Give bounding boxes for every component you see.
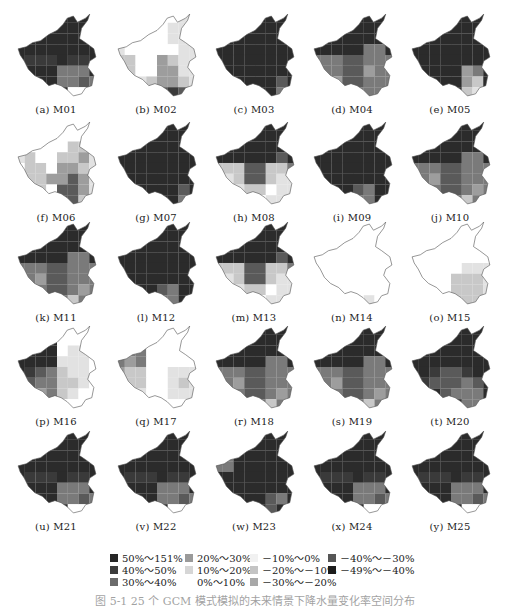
legend-item: －49%～－40%: [328, 564, 414, 575]
map-panel: (a) M01: [6, 12, 106, 116]
province-map: [408, 120, 494, 208]
panel-label: (m) M13: [204, 312, 304, 323]
panel-label: (n) M14: [302, 312, 402, 323]
province-map: [408, 12, 494, 100]
map-panel: (q) M17: [106, 324, 206, 428]
panel-label: (a) M01: [6, 104, 106, 115]
map-panel: (l) M12: [106, 220, 206, 324]
map-panel: (t) M20: [400, 324, 500, 428]
legend: 50%～151% 40%～50% 30%～40% 20%～30% 10%～20%…: [110, 552, 470, 588]
legend-label: 0%～10%: [197, 574, 245, 589]
legend-swatch: [185, 566, 193, 574]
panel-label: (u) M21: [6, 521, 106, 532]
map-panel: (d) M04: [302, 12, 402, 116]
province-map: [212, 12, 298, 100]
legend-swatch: [328, 554, 336, 562]
province-map: [408, 220, 494, 308]
map-panel: (v) M22: [106, 429, 206, 533]
province-map: [212, 324, 298, 412]
province-map: [114, 324, 200, 412]
province-map: [114, 429, 200, 517]
province-map: [114, 12, 200, 100]
panel-label: (v) M22: [106, 521, 206, 532]
map-panel: (m) M13: [204, 220, 304, 324]
legend-swatch: [110, 578, 118, 586]
panel-label: (t) M20: [400, 416, 500, 427]
province-map: [114, 220, 200, 308]
province-map: [408, 429, 494, 517]
legend-label: －49%～－40%: [340, 562, 414, 577]
map-panel: (x) M24: [302, 429, 402, 533]
map-panel: (u) M21: [6, 429, 106, 533]
legend-item: －30%～－20%: [250, 576, 336, 587]
map-panel: (s) M19: [302, 324, 402, 428]
legend-swatch: [110, 566, 118, 574]
map-panel: (n) M14: [302, 220, 402, 324]
panel-label: (p) M16: [6, 416, 106, 427]
panel-label: (l) M12: [106, 312, 206, 323]
map-panel: (i) M09: [302, 120, 402, 224]
province-map: [408, 324, 494, 412]
province-map: [212, 429, 298, 517]
map-panel: (p) M16: [6, 324, 106, 428]
legend-item: 0%～10%: [185, 576, 245, 587]
province-map: [114, 120, 200, 208]
panel-label: (k) M11: [6, 312, 106, 323]
map-panel: (r) M18: [204, 324, 304, 428]
legend-label: －30%～－20%: [262, 574, 336, 589]
legend-swatch: [250, 578, 258, 586]
map-panel: (j) M10: [400, 120, 500, 224]
map-panel: (g) M07: [106, 120, 206, 224]
legend-swatch: [328, 566, 336, 574]
map-panel: (w) M23: [204, 429, 304, 533]
panel-label: (r) M18: [204, 416, 304, 427]
legend-swatch: [250, 554, 258, 562]
map-panel: (o) M15: [400, 220, 500, 324]
panel-label: (d) M04: [302, 104, 402, 115]
province-map: [212, 220, 298, 308]
legend-label: 30%～40%: [122, 574, 176, 589]
panel-label: (e) M05: [400, 104, 500, 115]
province-map: [212, 120, 298, 208]
legend-swatch: [185, 554, 193, 562]
legend-swatch: [110, 554, 118, 562]
map-panel: (h) M08: [204, 120, 304, 224]
province-map: [14, 12, 100, 100]
province-map: [310, 220, 396, 308]
province-map: [310, 324, 396, 412]
panel-label: (o) M15: [400, 312, 500, 323]
map-panel: (b) M02: [106, 12, 206, 116]
figure-caption: 图 5-1 25 个 GCM 模式模拟的未来情景下降水量变化率空间分布: [40, 592, 470, 606]
province-map: [310, 12, 396, 100]
province-map: [310, 429, 396, 517]
province-map: [14, 324, 100, 412]
legend-item: 30%～40%: [110, 576, 176, 587]
panel-label: (s) M19: [302, 416, 402, 427]
province-map: [14, 220, 100, 308]
panel-label: (y) M25: [400, 521, 500, 532]
panel-label: (c) M03: [204, 104, 304, 115]
map-panel: (e) M05: [400, 12, 500, 116]
province-map: [14, 120, 100, 208]
panel-label: (q) M17: [106, 416, 206, 427]
map-panel: (k) M11: [6, 220, 106, 324]
province-map: [14, 429, 100, 517]
map-panel: (y) M25: [400, 429, 500, 533]
map-panel: (c) M03: [204, 12, 304, 116]
panel-label: (b) M02: [106, 104, 206, 115]
legend-swatch: [250, 566, 258, 574]
map-panel: (f) M06: [6, 120, 106, 224]
panel-label: (w) M23: [204, 521, 304, 532]
province-map: [310, 120, 396, 208]
panel-label: (x) M24: [302, 521, 402, 532]
legend-swatch: [185, 578, 193, 586]
